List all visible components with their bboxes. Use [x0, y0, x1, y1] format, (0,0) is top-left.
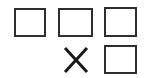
- x-mark-icon: [62, 45, 90, 75]
- shape-grid-diagram: [0, 0, 155, 78]
- grid-cell-row2-col2-x-mark: [60, 44, 91, 75]
- grid-cell-row1-col2-square[interactable]: [58, 8, 93, 37]
- grid-cell-row2-col1-empty: [14, 45, 46, 74]
- grid-cell-row1-col3-square[interactable]: [104, 7, 137, 37]
- grid-cell-row2-col3-square[interactable]: [104, 45, 137, 74]
- grid-cell-row1-col1-square[interactable]: [14, 8, 46, 37]
